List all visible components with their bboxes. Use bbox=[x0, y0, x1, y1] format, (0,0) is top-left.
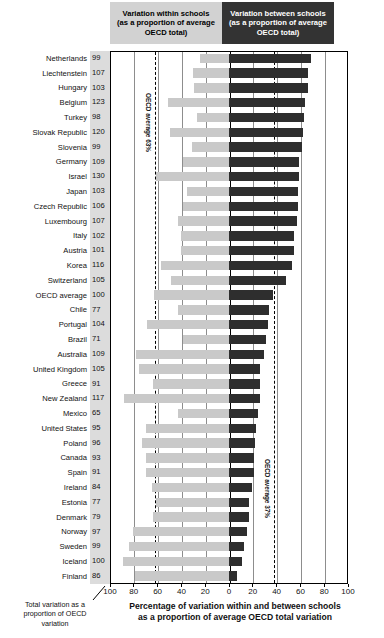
country-label-row[interactable]: Australia109 bbox=[0, 347, 110, 362]
bar-row bbox=[110, 317, 348, 332]
country-label-row[interactable]: New Zealand117 bbox=[0, 391, 110, 406]
country-label-row[interactable]: Slovenia99 bbox=[0, 140, 110, 155]
bar-row bbox=[110, 480, 348, 495]
country-label-row[interactable]: Brazil71 bbox=[0, 332, 110, 347]
country-name: Japan bbox=[66, 187, 90, 196]
x-axis-caption: Percentage of variation within and betwe… bbox=[104, 601, 366, 623]
total-variation-value: 93 bbox=[90, 451, 110, 466]
country-label-row[interactable]: Switzerland105 bbox=[0, 273, 110, 288]
bar-within-schools bbox=[146, 453, 229, 462]
bar-row bbox=[110, 510, 348, 525]
bar-within-schools bbox=[123, 557, 229, 566]
country-name: Germany bbox=[56, 157, 90, 166]
country-label-row[interactable]: Luxembourg107 bbox=[0, 214, 110, 229]
country-label-row[interactable]: Greece91 bbox=[0, 377, 110, 392]
country-name: Denmark bbox=[56, 513, 90, 522]
bar-within-schools bbox=[181, 231, 229, 240]
country-label-row[interactable]: Netherlands99 bbox=[0, 51, 110, 66]
country-label-row[interactable]: Israel130 bbox=[0, 169, 110, 184]
country-label-row[interactable]: Sweden99 bbox=[0, 539, 110, 554]
axis-tick-label: 40 bbox=[265, 587, 289, 596]
country-label-row[interactable]: Poland96 bbox=[0, 436, 110, 451]
country-label-row[interactable]: OECD average100 bbox=[0, 288, 110, 303]
country-label-row[interactable]: Finland86 bbox=[0, 569, 110, 584]
country-name: Israel bbox=[68, 172, 90, 181]
bar-within-schools bbox=[178, 409, 229, 418]
bar-row bbox=[110, 347, 348, 362]
bar-between-schools bbox=[229, 202, 298, 211]
bar-between-schools bbox=[229, 305, 269, 314]
country-label-row[interactable]: Iceland100 bbox=[0, 554, 110, 569]
country-name: Mexico bbox=[63, 409, 90, 418]
bar-between-schools bbox=[229, 483, 252, 492]
bar-row bbox=[110, 303, 348, 318]
total-variation-value: 96 bbox=[90, 436, 110, 451]
bar-between-schools bbox=[229, 216, 297, 225]
axis-tick-label: 20 bbox=[241, 587, 265, 596]
country-label-row[interactable]: Italy102 bbox=[0, 229, 110, 244]
bar-within-schools bbox=[168, 98, 229, 107]
country-label-row[interactable]: Norway97 bbox=[0, 525, 110, 540]
country-label-row[interactable]: Denmark79 bbox=[0, 510, 110, 525]
bar-within-schools bbox=[146, 424, 229, 433]
country-name: Italy bbox=[73, 231, 90, 240]
bar-between-schools bbox=[229, 424, 256, 433]
bar-within-schools bbox=[154, 290, 229, 299]
bar-within-schools bbox=[129, 542, 229, 551]
total-variation-value: 130 bbox=[90, 169, 110, 184]
bar-within-schools bbox=[183, 202, 229, 211]
country-label-row[interactable]: Estonia77 bbox=[0, 495, 110, 510]
country-label-row[interactable]: Chile77 bbox=[0, 303, 110, 318]
country-label-row[interactable]: Canada93 bbox=[0, 451, 110, 466]
bar-between-schools bbox=[229, 394, 260, 403]
country-name: Spain bbox=[68, 468, 90, 477]
country-name: Iceland bbox=[63, 557, 91, 566]
total-variation-value: 86 bbox=[90, 569, 110, 584]
legend-within-schools: Variation within schools (as a proportio… bbox=[110, 2, 222, 44]
country-label-row[interactable]: Hungary103 bbox=[0, 81, 110, 96]
country-label-row[interactable]: Ireland84 bbox=[0, 480, 110, 495]
country-label-row[interactable]: Germany109 bbox=[0, 155, 110, 170]
country-label-row[interactable]: Turkey98 bbox=[0, 110, 110, 125]
leader-line bbox=[92, 585, 106, 601]
bar-row bbox=[110, 465, 348, 480]
bar-between-schools bbox=[229, 453, 254, 462]
country-label-row[interactable]: Spain91 bbox=[0, 465, 110, 480]
country-name: Liechtenstein bbox=[42, 69, 90, 78]
country-name: Netherlands bbox=[46, 54, 90, 63]
country-label-row[interactable]: Czech Republic106 bbox=[0, 199, 110, 214]
x-axis: 10080604020020406080100 bbox=[110, 584, 348, 598]
total-variation-value: 99 bbox=[90, 140, 110, 155]
bar-within-schools bbox=[183, 157, 229, 166]
total-variation-value: 95 bbox=[90, 421, 110, 436]
total-variation-value: 107 bbox=[90, 66, 110, 81]
bar-between-schools bbox=[229, 276, 286, 285]
country-label-row[interactable]: Austria101 bbox=[0, 243, 110, 258]
bar-within-schools bbox=[142, 438, 229, 447]
country-label-row[interactable]: Liechtenstein107 bbox=[0, 66, 110, 81]
country-label-row[interactable]: United States95 bbox=[0, 421, 110, 436]
total-variation-value: 103 bbox=[90, 184, 110, 199]
bar-row bbox=[110, 184, 348, 199]
bar-within-schools bbox=[178, 216, 229, 225]
country-label-row[interactable]: Slovak Republic120 bbox=[0, 125, 110, 140]
bar-row bbox=[110, 569, 348, 584]
country-label-row[interactable]: Japan103 bbox=[0, 184, 110, 199]
bar-between-schools bbox=[229, 157, 299, 166]
axis-tick-label: 100 bbox=[336, 587, 360, 596]
bar-within-schools bbox=[146, 468, 229, 477]
country-name: Turkey bbox=[64, 113, 90, 122]
bar-row bbox=[110, 525, 348, 540]
country-label-row[interactable]: Belgium123 bbox=[0, 95, 110, 110]
bar-within-schools bbox=[136, 350, 229, 359]
country-label-row[interactable]: Mexico65 bbox=[0, 406, 110, 421]
legend-within-line1: Variation within schools bbox=[117, 9, 215, 19]
country-label-row[interactable]: Korea116 bbox=[0, 258, 110, 273]
bar-between-schools bbox=[229, 335, 266, 344]
bar-between-schools bbox=[229, 364, 260, 373]
country-label-row[interactable]: Portugal104 bbox=[0, 317, 110, 332]
country-label-row[interactable]: United Kingdom105 bbox=[0, 362, 110, 377]
bar-between-schools bbox=[229, 54, 311, 63]
country-name: Switzerland bbox=[48, 276, 90, 285]
bar-within-schools bbox=[170, 128, 230, 137]
